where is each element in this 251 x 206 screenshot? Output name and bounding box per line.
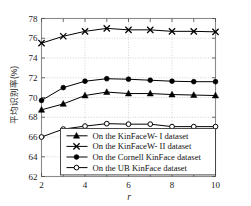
y-tick-label: 70: [29, 93, 39, 103]
y-tick-label: 64: [29, 152, 39, 162]
data-point-marker-filled-circle: [191, 79, 196, 84]
legend-label: On the KinFaceW- I dataset: [93, 131, 190, 141]
x-axis-title: r: [127, 192, 131, 202]
chart-figure: 626466687072747678 246810 On the KinFace…: [0, 0, 251, 206]
data-point-marker-filled-circle: [148, 78, 153, 83]
data-point-marker-open-circle: [39, 135, 44, 140]
data-point-marker-open-circle: [74, 165, 79, 170]
y-tick-label: 78: [29, 14, 39, 24]
legend-label: On the KinFaceW- II dataset: [93, 141, 192, 151]
data-point-marker-open-circle: [126, 122, 131, 127]
y-axis-title: 平均识别率(%): [9, 66, 19, 124]
y-tick-label: 76: [29, 33, 39, 43]
data-point-marker-open-circle: [148, 122, 153, 127]
x-tick-label: 6: [126, 180, 131, 190]
y-tick-label: 72: [29, 73, 38, 83]
recognition-rate-line-chart: 626466687072747678 246810 On the KinFace…: [0, 0, 251, 206]
data-point-marker-open-circle: [83, 124, 88, 129]
y-tick-label: 66: [29, 132, 39, 142]
data-point-marker-filled-circle: [126, 77, 131, 82]
y-tick-label: 62: [29, 172, 38, 182]
data-point-marker-filled-circle: [83, 79, 88, 84]
data-point-marker-filled-circle: [213, 79, 218, 84]
data-point-marker-filled-circle: [61, 85, 66, 90]
x-tick-label: 4: [83, 180, 88, 190]
x-tick-label: 2: [39, 180, 44, 190]
data-point-marker-filled-circle: [74, 155, 79, 160]
data-point-marker-filled-circle: [170, 79, 175, 84]
y-tick-label: 74: [29, 53, 39, 63]
data-point-marker-filled-circle: [104, 76, 109, 81]
data-point-marker-open-circle: [104, 121, 109, 126]
chart-legend: On the KinFaceW- I datasetOn the KinFace…: [61, 129, 216, 175]
legend-label: On the Cornell KinFace dataset: [93, 152, 202, 162]
data-point-marker-filled-circle: [39, 98, 44, 103]
x-tick-label: 10: [211, 180, 221, 190]
legend-label: On the UB KinFace dataset: [93, 163, 188, 173]
x-tick-label: 8: [170, 180, 175, 190]
y-axis-tick-labels: 626466687072747678: [29, 14, 39, 182]
y-tick-label: 68: [29, 112, 39, 122]
